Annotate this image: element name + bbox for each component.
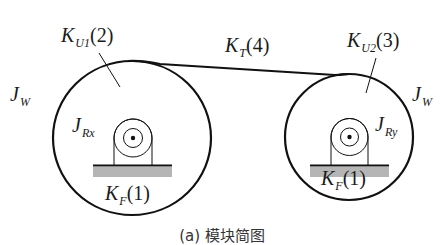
belt-line <box>128 61 349 75</box>
label-kt-main: K <box>225 34 238 56</box>
label-jw-right-sub: W <box>422 95 432 109</box>
label-ku2-index: (3) <box>376 29 399 51</box>
label-jw-right-main: J <box>412 83 421 105</box>
label-jw-left-sub: W <box>20 95 30 109</box>
label-ku1-main: K <box>61 24 74 46</box>
label-kf-left-main: K <box>105 182 118 204</box>
label-kf-left-sub: F <box>119 194 126 208</box>
label-ku1-index: (2) <box>90 24 113 46</box>
label-kt-index: (4) <box>246 34 269 56</box>
label-jw-left-main: J <box>10 83 19 105</box>
label-kf-right-sub: F <box>335 179 342 193</box>
label-kf-right-main: K <box>321 167 334 189</box>
left-roller-assembly <box>93 119 172 177</box>
label-ku1: KU1(2) <box>61 25 113 49</box>
left-ground-block <box>93 167 172 177</box>
label-kf-left: KF(1) <box>105 183 150 207</box>
label-ku2-main: K <box>347 29 360 51</box>
label-kf-right-index: (1) <box>343 167 366 189</box>
label-kt: KT(4) <box>225 35 269 59</box>
label-kf-left-index: (1) <box>127 182 150 204</box>
label-ku2-sub: U2 <box>361 41 376 55</box>
label-jry-sub: Ry <box>385 125 397 139</box>
figure-caption: (a) 模块简图 <box>0 229 444 244</box>
label-jw-right: JW <box>412 84 432 108</box>
leader-line-ku1 <box>99 53 120 87</box>
label-ku2: KU2(3) <box>347 30 399 54</box>
label-jw-left: JW <box>10 84 30 108</box>
label-jrx: JRx <box>72 115 95 139</box>
label-jry-main: J <box>375 113 384 135</box>
label-jry: JRy <box>375 114 397 138</box>
label-jrx-sub: Rx <box>82 126 95 140</box>
label-ku1-sub: U1 <box>75 36 90 50</box>
label-jrx-main: J <box>72 114 81 136</box>
label-kf-right: KF(1) <box>321 168 366 192</box>
